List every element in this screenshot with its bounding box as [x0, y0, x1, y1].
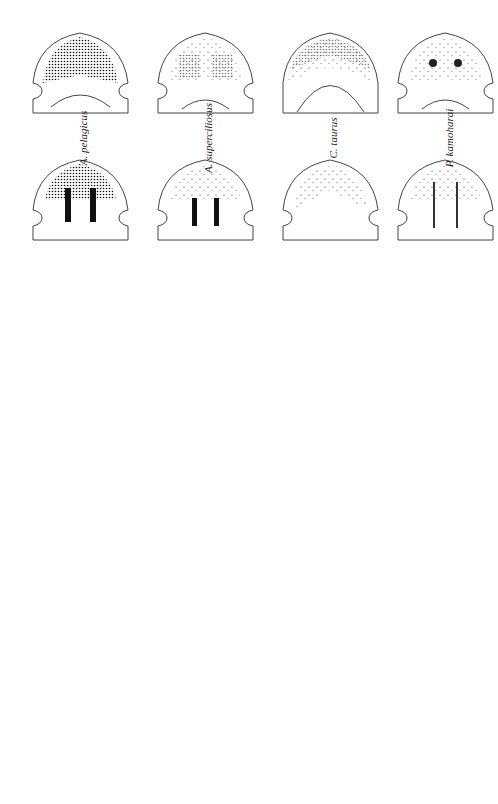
label-c-taurus: C. taurus: [327, 118, 339, 159]
label-a-superciliosus: A. superciliosus: [202, 103, 214, 174]
shark-head-pore-figure: A. pelagicus A. superciliosus C. taurus …: [0, 0, 498, 804]
a-pelagicus-dorsal: [33, 160, 128, 240]
shark-figure: A. pelagicus A. superciliosus C. taurus …: [0, 0, 498, 804]
a-pelagicus-ventral: [33, 33, 128, 113]
label-p-kamoharai: P. kamoharai: [443, 109, 455, 168]
label-a-pelagicus: A. pelagicus: [77, 111, 89, 166]
c-taurus-dorsal: [283, 160, 378, 240]
a-superciliosus-ventral: [158, 33, 253, 113]
c-taurus-ventral: [283, 33, 378, 113]
p-kamoharai-ventral: [398, 33, 493, 113]
p-kamoharai-dorsal: [398, 160, 493, 240]
